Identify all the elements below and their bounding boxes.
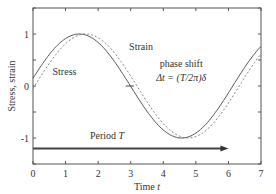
period-arrow-head bbox=[220, 145, 228, 151]
x-tick-label: 3 bbox=[128, 168, 133, 179]
x-tick-label: 2 bbox=[96, 168, 101, 179]
stress-label: Stress bbox=[53, 66, 77, 77]
stress-strain-chart: 01234567-101StressStrainphase shiftΔt = … bbox=[0, 0, 276, 194]
x-tick-label: 4 bbox=[161, 168, 166, 179]
plot-area: 01234567-101StressStrainphase shiftΔt = … bbox=[6, 8, 264, 192]
phase-shift-formula: Δt = (T/2π)δ bbox=[155, 72, 206, 84]
x-tick-label: 6 bbox=[226, 168, 231, 179]
y-axis-label: Stress, strain bbox=[6, 60, 17, 111]
period-label: Period T bbox=[90, 130, 126, 141]
x-tick-label: 7 bbox=[259, 168, 264, 179]
plot-frame bbox=[33, 8, 261, 164]
x-tick-label: 5 bbox=[193, 168, 198, 179]
phase-shift-label: phase shift bbox=[160, 58, 203, 69]
x-tick-label: 0 bbox=[31, 168, 36, 179]
y-tick-label: -1 bbox=[21, 133, 29, 144]
y-tick-label: 0 bbox=[24, 81, 29, 92]
x-axis-label: Time t bbox=[134, 181, 160, 192]
x-tick-label: 1 bbox=[63, 168, 68, 179]
y-tick-label: 1 bbox=[24, 29, 29, 40]
strain-label: Strain bbox=[129, 41, 153, 52]
